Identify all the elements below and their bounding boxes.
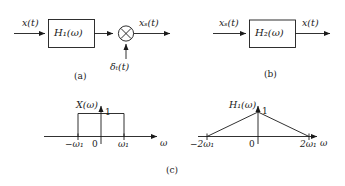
plot-x-axis-label: ω (160, 139, 167, 148)
panel-b-block-label: H₂(ω) (255, 28, 284, 38)
panel-a-output-label: xₛ(t) (139, 18, 159, 28)
panel-a-input-label: x(t) (22, 18, 39, 28)
plot-h1-axis-label: ω (320, 139, 327, 148)
plot-h1-right-tick-label: 2ω₁ (300, 140, 317, 149)
panel-c-caption: (c) (166, 166, 178, 175)
panel-b-output-label: x(t) (302, 18, 319, 28)
panel-a-impulse-train-label: δₜ(t) (110, 62, 129, 72)
figure-root: x(t) H₁(ω) δₜ(t) xₛ(t) (a) xₛ(t) H₂(ω) x… (0, 0, 345, 186)
panel-b-input-label: xₛ(t) (219, 18, 239, 28)
panel-a-block-label: H₁(ω) (54, 28, 83, 38)
panel-a-caption: (a) (74, 72, 86, 81)
plot-x-peak-label: 1 (105, 108, 111, 117)
plot-h1-left-slope (207, 112, 258, 137)
plot-h1-peak-label: 1 (262, 107, 268, 116)
figure-vector-layer (0, 0, 345, 186)
plot-x-title: X(ω) (76, 100, 98, 110)
plot-h1-left-tick-label: −2ω₁ (190, 140, 214, 149)
plot-x-right-tick-label: ω₁ (118, 140, 129, 149)
plot-h1-origin-label: 0 (249, 140, 255, 149)
plot-h1-title: H₁(ω) (229, 100, 256, 110)
panel-b-caption: (b) (264, 70, 277, 79)
plot-x-left-tick-label: −ω₁ (65, 140, 84, 149)
plot-x-origin-label: 0 (92, 140, 98, 149)
